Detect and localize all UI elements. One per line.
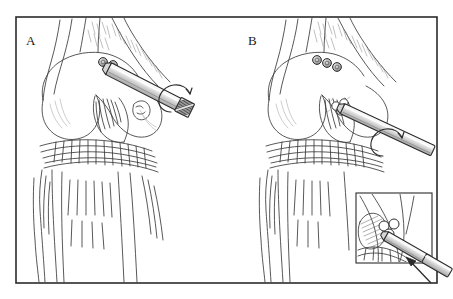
figure-container: A xyxy=(0,0,453,299)
panel-a-label: A xyxy=(26,33,36,48)
panel-b-label: B xyxy=(248,33,257,48)
knee-surgery-illustration: A xyxy=(0,0,453,299)
